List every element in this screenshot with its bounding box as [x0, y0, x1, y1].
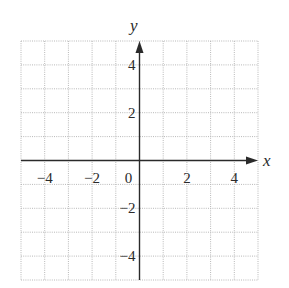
axes — [21, 41, 258, 280]
x-tick-label: −2 — [84, 170, 100, 186]
x-tick-label: 4 — [231, 170, 239, 186]
y-tick-label: −2 — [120, 200, 136, 216]
x-tick-label: 2 — [183, 170, 191, 186]
x-tick-label: −4 — [37, 170, 53, 186]
y-axis-arrow-icon — [136, 41, 144, 53]
x-tick-labels: −4−2024 — [37, 170, 239, 186]
y-tick-label: 2 — [128, 105, 136, 121]
x-tick-label: 0 — [125, 170, 133, 186]
coordinate-plane: x y −4−2024 42−2−4 — [0, 0, 289, 288]
y-tick-label: −4 — [120, 248, 136, 264]
x-axis-arrow-icon — [246, 157, 258, 165]
y-tick-label: 4 — [128, 57, 136, 73]
y-axis-label: y — [128, 16, 138, 35]
x-axis-label: x — [262, 151, 271, 170]
